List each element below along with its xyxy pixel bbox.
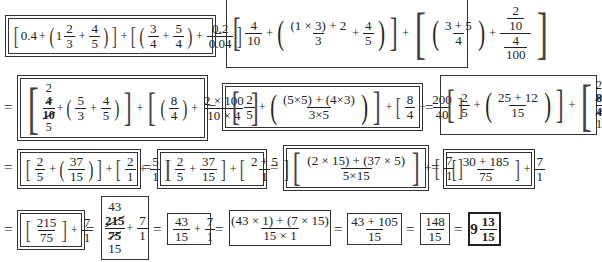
numerator: 148 [423,215,447,229]
right-paren: ) [378,16,385,50]
reduced-numerator: 43 [108,200,121,214]
right-bracket: ] [515,156,520,182]
numerator: 8 [405,93,416,107]
step-6-box: [ 25 + ( 3715 ) ] + [ 21 + 51 ] [20,152,138,186]
denominator: 15 [427,229,444,244]
left-bracket: [ [232,87,240,127]
step-4-box: [ 25 + ( (5×5) + (4×3)3×5 ) ] + [ 84 + 2… [225,86,420,128]
numerator: 4 [101,94,112,108]
denominator: 1 [205,229,216,244]
right-paren: ) [183,96,188,120]
right-paren: ) [104,24,109,48]
numerator: 7 [205,215,216,229]
equals-sign: = [431,160,439,175]
numerator: 7 [534,155,545,169]
denominator: 4 [405,107,416,122]
fraction: 3715 [200,155,217,183]
equals-sign: = [208,100,216,115]
right-paren: ) [478,16,485,50]
left-paren: ( [160,96,165,120]
denominator: 4 [173,36,184,51]
numerator: 37 [68,155,85,169]
fraction: 84 [169,94,180,122]
numerator: 13 [480,215,497,229]
step-13-box: (43 × 1) + (7 × 15)15 × 1 [229,210,331,246]
step-5-box: [ 25 + ( 25 + 1215 ) ] + [ 2 8 4 1 + 5 2… [440,75,597,135]
plus-sign: + [474,98,481,113]
denominator: 10 [507,18,524,33]
numerator: 2 [125,155,136,169]
right-paren: ) [544,88,551,122]
numerator: 2 [175,155,186,169]
denominator: 4 [148,36,159,51]
numerator: 7 [137,214,148,228]
fraction: 21575 [35,216,59,244]
plus-sign: + [568,98,575,113]
fraction: 34 [148,22,159,50]
plus-sign: + [137,101,144,116]
denominator: 3×5 [307,107,331,122]
left-bracket: [ [131,23,136,49]
reduced-denominator: 15 [108,242,121,256]
step-14-box: 43 + 10515 [347,213,402,245]
step-10-box: [ 21575 ] + 71 [20,213,82,247]
numerator: 215 [35,216,59,230]
numerator: 43 [173,215,190,229]
denominator: 15 [480,229,497,244]
denominator: 1 [534,169,545,184]
equals-sign: = [406,222,414,237]
fraction: 3715 [68,155,85,183]
plus-sign: + [385,100,392,115]
denominator: 15 [68,169,85,184]
denominator: 4100 [500,33,532,62]
fraction: 1315 [480,215,497,243]
left-bracket: [ [415,5,426,61]
plus-sign: + [524,162,531,177]
left-bracket: [ [26,217,31,243]
equals-sign: = [153,222,161,237]
left-bracket: [ [14,23,19,49]
right-bracket: ] [373,87,381,127]
final-answer-mixed-number: 9 1315 [470,215,499,243]
plus-sign: + [191,101,198,116]
left-paren: ( [67,96,72,120]
plus-sign: + [163,29,170,44]
step-2-box: [ 410 + ( (1 × 3) + 23 + 45 ) ] + [ ( 3 … [226,0,468,68]
plus-sign: + [106,162,113,177]
numerator: 30 + 185 [461,155,511,169]
right-bracket: ] [62,217,67,243]
right-bracket: ] [97,156,102,182]
left-bracket: [ [293,148,301,188]
fraction: 30 + 18575 [461,155,511,183]
reduced-denominator: 5 [46,121,52,134]
fraction: 45 [363,19,374,47]
right-paren: ) [361,90,368,124]
plus-sign: + [352,26,359,41]
denominator: 15 × 1 [261,228,298,243]
numerator: 2 [510,4,521,18]
plus-sign: + [230,162,237,177]
denominator: 15 [173,229,190,244]
denominator: 4 [453,33,464,48]
fraction: 3 + 54 [443,19,474,47]
equals-sign: = [215,222,223,237]
right-paren: ) [187,24,192,48]
denominator: 5×15 [341,168,372,183]
numerator: 215 [105,214,125,228]
fraction: 54 [173,22,184,50]
left-paren: ( [270,90,277,124]
denominator: 75 [477,169,494,184]
whole-part: 9 [470,221,478,238]
denominator: 15 [366,229,383,244]
denominator: 3 [75,108,86,123]
step-7-box: [ 25 + 3715 ] + [ 2 + 51 ] [160,152,264,186]
right-bracket: ] [112,23,117,49]
plus-sign: + [127,221,134,236]
right-bracket: ] [124,88,132,128]
fraction: 23 [64,22,75,50]
denominator: 75 [108,229,121,243]
equals-sign: = [334,222,342,237]
fraction: 25 [459,91,470,119]
right-paren: ) [89,157,94,181]
denominator: 5 [175,169,186,184]
